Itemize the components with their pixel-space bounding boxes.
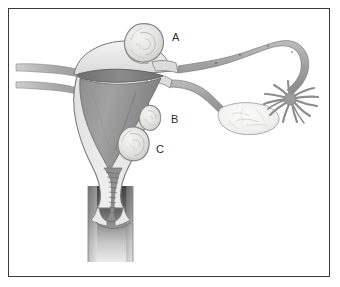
label-c: C — [156, 143, 164, 155]
fimbriae-core — [284, 93, 296, 105]
intramural-fibroid — [139, 105, 160, 130]
submucosal-fibroid — [118, 127, 149, 161]
label-a: A — [172, 31, 180, 43]
figure-root: A B C — [0, 0, 340, 287]
label-b: B — [171, 113, 178, 125]
anatomy-illustration: A B C — [0, 0, 340, 287]
